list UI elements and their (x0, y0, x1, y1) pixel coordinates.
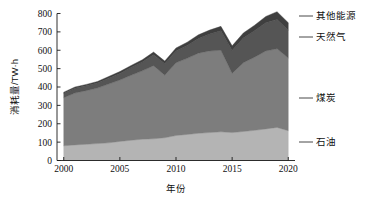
y-tick-label: 800 (38, 9, 53, 19)
y-tick-label: 300 (38, 101, 53, 111)
y-tick-label: 500 (38, 64, 53, 74)
chart-figure: 0100200300400500600700800 20002005201020… (0, 0, 376, 202)
y-tick-label: 200 (38, 119, 53, 129)
y-tick-label: 700 (38, 27, 53, 37)
y-tick-label: 0 (47, 156, 52, 166)
x-axis-title: 年份 (166, 183, 186, 194)
y-tick-label: 100 (38, 138, 53, 148)
x-tick-label: 2015 (223, 164, 242, 174)
x-tick-label: 2000 (54, 164, 73, 174)
x-tick-label: 2020 (279, 164, 298, 174)
x-tick-label: 2005 (110, 164, 129, 174)
legend-label-2: 天然气 (316, 31, 346, 42)
legend-label-1: 煤炭 (316, 92, 336, 103)
y-tick-label: 600 (38, 46, 53, 56)
legend-label-3: 其他能源 (316, 10, 356, 21)
stacked-area-chart: 0100200300400500600700800 20002005201020… (0, 0, 376, 202)
legend-label-0: 石油 (316, 136, 336, 147)
x-tick-label: 2010 (167, 164, 186, 174)
y-tick-label: 400 (38, 82, 53, 92)
y-axis-title: 消耗量/TW·h (9, 59, 20, 115)
